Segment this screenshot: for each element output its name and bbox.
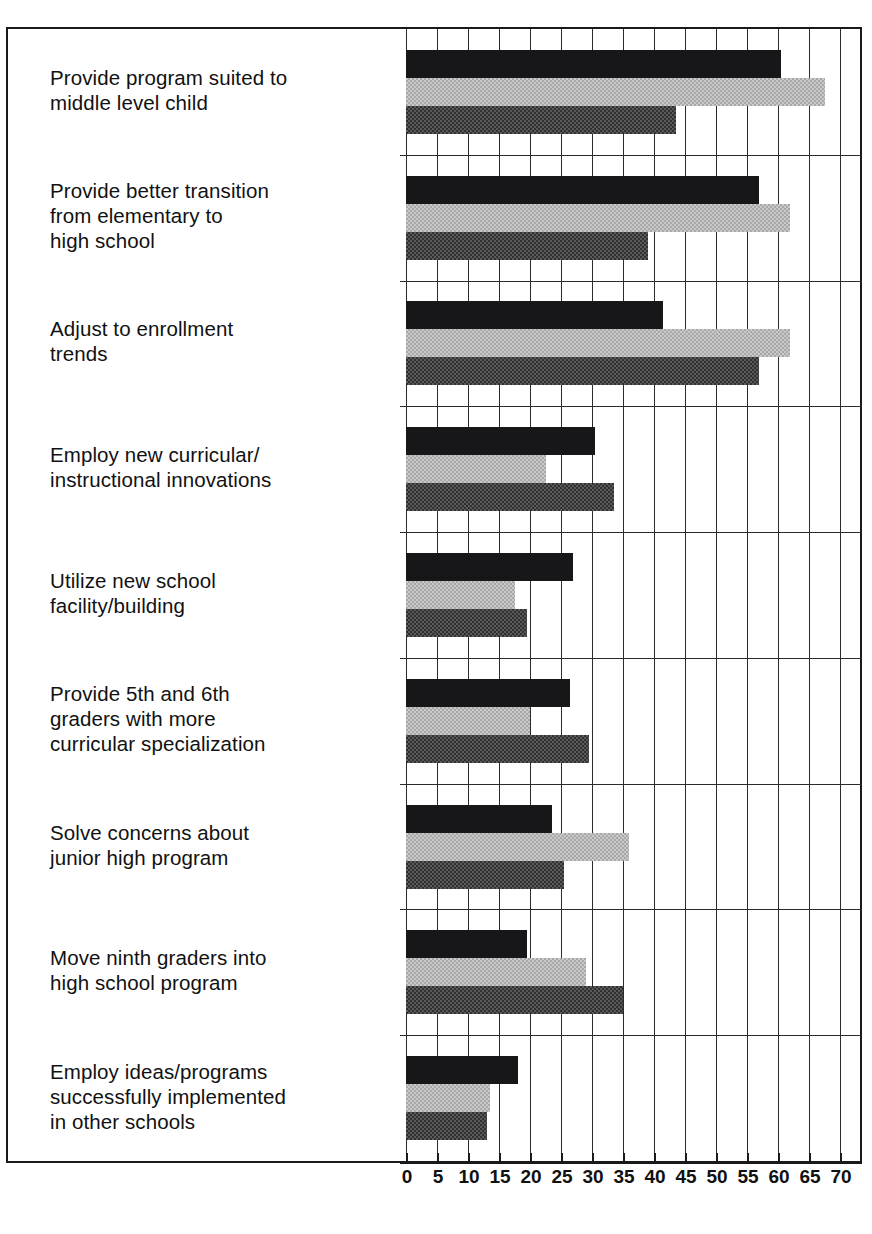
group-separator — [400, 155, 862, 156]
bar-series-3-6 — [406, 861, 564, 889]
group-separator — [400, 784, 862, 785]
category-label-4: Utilize new school facility/building — [50, 568, 400, 618]
bar-series-3-8 — [406, 1112, 487, 1140]
bar-series-3-2 — [406, 357, 759, 385]
bar-series-3-5 — [406, 735, 589, 763]
x-tick-label-60: 60 — [768, 1166, 789, 1188]
x-axis: 0510152025303540455055606570 — [400, 1162, 862, 1212]
category-label-1: Provide better transition from elementar… — [50, 178, 400, 253]
x-tick-label-20: 20 — [520, 1166, 541, 1188]
group-separator — [400, 281, 862, 282]
gridline-vertical — [778, 29, 779, 1161]
category-label-5: Provide 5th and 6th graders with more cu… — [50, 681, 400, 756]
bar-series-1-4 — [406, 553, 573, 581]
chart-figure: Provide program suited to middle level c… — [0, 0, 872, 1234]
bar-series-2-4 — [406, 581, 515, 609]
x-tick-label-65: 65 — [799, 1166, 820, 1188]
x-tick-60 — [778, 1153, 780, 1162]
x-tick-5 — [437, 1153, 439, 1162]
x-tick-30 — [592, 1153, 594, 1162]
x-tick-40 — [654, 1153, 656, 1162]
bar-series-2-7 — [406, 958, 586, 986]
gridline-vertical — [809, 29, 810, 1161]
bar-series-2-0 — [406, 78, 825, 106]
category-label-column: Provide program suited to middle level c… — [8, 29, 400, 1161]
bar-series-2-2 — [406, 329, 790, 357]
category-label-7: Move ninth graders into high school prog… — [50, 945, 400, 995]
x-tick-65 — [809, 1153, 811, 1162]
bar-series-1-1 — [406, 176, 759, 204]
x-axis-line — [400, 1162, 862, 1164]
group-separator — [400, 909, 862, 910]
bar-series-3-4 — [406, 609, 527, 637]
bar-series-1-3 — [406, 427, 595, 455]
bar-series-1-5 — [406, 679, 570, 707]
group-separator — [400, 532, 862, 533]
x-tick-10 — [468, 1153, 470, 1162]
x-tick-label-10: 10 — [458, 1166, 479, 1188]
bar-series-3-0 — [406, 106, 676, 134]
x-tick-0 — [406, 1153, 408, 1162]
x-tick-label-55: 55 — [737, 1166, 758, 1188]
plot-area — [400, 29, 862, 1161]
gridline-vertical — [840, 29, 841, 1161]
bar-series-2-6 — [406, 833, 629, 861]
x-tick-label-40: 40 — [644, 1166, 665, 1188]
x-tick-label-45: 45 — [675, 1166, 696, 1188]
x-tick-label-70: 70 — [830, 1166, 851, 1188]
category-label-0: Provide program suited to middle level c… — [50, 65, 400, 115]
category-label-6: Solve concerns about junior high program — [50, 820, 400, 870]
bar-series-3-3 — [406, 483, 614, 511]
x-tick-label-30: 30 — [582, 1166, 603, 1188]
bar-series-1-7 — [406, 930, 527, 958]
bar-series-2-3 — [406, 455, 546, 483]
group-separator — [400, 658, 862, 659]
category-label-2: Adjust to enrollment trends — [50, 316, 400, 366]
bar-series-1-2 — [406, 301, 663, 329]
x-tick-45 — [685, 1153, 687, 1162]
x-tick-label-35: 35 — [613, 1166, 634, 1188]
x-tick-label-5: 5 — [433, 1166, 444, 1188]
x-tick-label-50: 50 — [706, 1166, 727, 1188]
group-separator — [400, 1035, 862, 1036]
x-tick-15 — [499, 1153, 501, 1162]
group-separator — [400, 406, 862, 407]
x-tick-label-15: 15 — [489, 1166, 510, 1188]
bar-series-3-1 — [406, 232, 648, 260]
bar-series-3-7 — [406, 986, 623, 1014]
bar-series-2-5 — [406, 707, 530, 735]
bar-series-1-8 — [406, 1056, 518, 1084]
bar-series-1-6 — [406, 805, 552, 833]
x-tick-label-0: 0 — [402, 1166, 413, 1188]
category-label-8: Employ ideas/programs successfully imple… — [50, 1059, 400, 1134]
bar-series-2-8 — [406, 1084, 490, 1112]
bar-series-1-0 — [406, 50, 781, 78]
x-tick-20 — [530, 1153, 532, 1162]
x-tick-35 — [623, 1153, 625, 1162]
bar-series-2-1 — [406, 204, 790, 232]
x-tick-50 — [716, 1153, 718, 1162]
x-tick-25 — [561, 1153, 563, 1162]
x-tick-label-25: 25 — [551, 1166, 572, 1188]
x-tick-70 — [840, 1153, 842, 1162]
x-tick-55 — [747, 1153, 749, 1162]
category-label-3: Employ new curricular/ instructional inn… — [50, 442, 400, 492]
